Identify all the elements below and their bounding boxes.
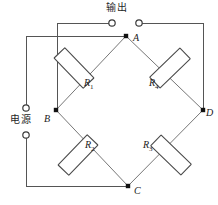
circuit-diagram: 输出 电源 A B C D R1 R4 R2 R3 xyxy=(0,0,218,205)
resistor-label-R3: R3 xyxy=(143,140,153,153)
node-dot-B xyxy=(54,108,58,112)
node-label-D: D xyxy=(206,108,213,118)
resistor-label-R1: R1 xyxy=(84,78,94,91)
resistor-label-R4-sub: 4 xyxy=(155,83,159,91)
arm-A-B xyxy=(56,36,126,110)
resistor-label-R1-sub: 1 xyxy=(90,83,94,91)
resistor-label-R2-sub: 2 xyxy=(91,145,95,153)
resistor-label-R2: R2 xyxy=(85,140,95,153)
node-label-C: C xyxy=(134,186,141,196)
node-label-B: B xyxy=(44,114,50,124)
node-label-A: A xyxy=(133,33,139,43)
node-dot-C xyxy=(126,184,130,188)
circuit-schematic-svg xyxy=(0,0,218,205)
terminal-output-left[interactable] xyxy=(109,20,115,26)
terminal-output-right[interactable] xyxy=(136,20,142,26)
output-label: 输出 xyxy=(106,3,127,13)
power-source-label: 电源 xyxy=(10,115,31,125)
terminal-power-bottom[interactable] xyxy=(23,132,29,138)
node-dot-D xyxy=(201,108,205,112)
node-dot-A xyxy=(124,34,128,38)
resistor-label-R4: R4 xyxy=(149,78,159,91)
resistor-bodies xyxy=(54,48,191,176)
resistor-label-R3-sub: 3 xyxy=(149,145,153,153)
terminal-power-top[interactable] xyxy=(23,105,29,111)
resistor-R3-body xyxy=(151,135,192,175)
